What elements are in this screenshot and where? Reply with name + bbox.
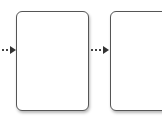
diagram-canvas [0,0,162,122]
flow-node-box-1 [16,11,89,111]
arrowhead-icon [103,46,109,54]
dotted-arrow-connector-2 [91,46,109,54]
flow-node-box-2 [110,11,162,111]
dotted-arrow-connector-1 [2,46,16,54]
dotted-line [2,49,8,53]
dotted-line [91,49,101,53]
